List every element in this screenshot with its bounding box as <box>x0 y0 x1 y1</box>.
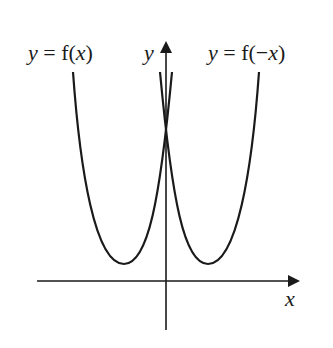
label-x-axis: x <box>284 286 295 311</box>
curve-f-x <box>73 72 172 264</box>
label-f-neg-x: y = f(−x) <box>206 40 285 65</box>
label-f-x: y = f(x) <box>26 40 93 65</box>
graph-diagram: y = f(x) y y = f(−x) x <box>0 0 333 348</box>
curve-f-neg-x <box>160 72 259 264</box>
y-axis-arrow-icon <box>160 41 172 53</box>
label-y-axis: y <box>142 40 154 65</box>
